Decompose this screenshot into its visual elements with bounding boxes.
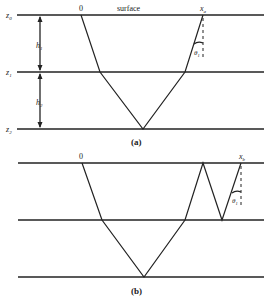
- layered-ray-diagram: z0 z1 z2 h1 h2 0 surface xa θ1 (a) 0 xb …: [0, 0, 271, 300]
- label-h1: h1: [36, 41, 43, 51]
- label-h2: h2: [36, 98, 43, 108]
- label-origin-b: 0: [79, 152, 83, 161]
- label-angle-a: θ1: [194, 49, 200, 58]
- angle-arc-b: [232, 191, 241, 193]
- panel-a: z0 z1 z2 h1 h2 0 surface xa θ1 (a): [5, 4, 264, 147]
- caption-a: (a): [131, 137, 142, 147]
- panel-b: 0 xb θ1 (b): [18, 152, 264, 296]
- label-angle-b: θ1: [232, 197, 238, 206]
- label-receiver-a: xa: [199, 4, 207, 14]
- angle-arc-a: [194, 42, 203, 44]
- label-surface: surface: [117, 4, 141, 13]
- label-z0: z0: [5, 11, 12, 21]
- label-receiver-b: xb: [238, 152, 246, 162]
- label-origin-a: 0: [79, 4, 83, 13]
- caption-b: (b): [131, 286, 142, 296]
- label-z2: z2: [5, 125, 12, 135]
- label-z1: z1: [5, 68, 12, 78]
